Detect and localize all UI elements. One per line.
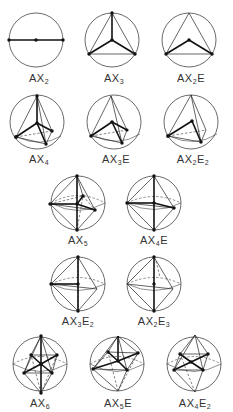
sphere-outline (90, 337, 144, 391)
figure-ax5: AX5 (40, 170, 116, 236)
edge (93, 369, 118, 391)
ligand-atom (50, 129, 53, 132)
ax3e2-diagram (40, 251, 116, 317)
hidden-edge (41, 355, 57, 393)
figure-ax4: AX4 (1, 88, 77, 154)
ligand-atom (29, 353, 32, 356)
ligand-atom (152, 255, 155, 258)
ligand-atom (50, 371, 53, 374)
figure-label: AX4 (1, 153, 77, 165)
figure-ax2: AX2 (1, 6, 77, 72)
figure-ax2e: AX2E (153, 6, 229, 72)
bond (16, 123, 37, 137)
central-atom (152, 282, 155, 285)
ax4-diagram (1, 88, 77, 154)
bond (192, 121, 201, 142)
ligand-atom (55, 353, 58, 356)
ligand-atom (133, 52, 136, 55)
figure-label: AX2E2 (155, 153, 231, 165)
edge (195, 370, 203, 392)
ax5e-diagram (80, 331, 156, 397)
figure-label: AX2 (1, 72, 77, 84)
edge (37, 96, 46, 144)
central-atom (110, 38, 113, 41)
ligand-atom (120, 141, 123, 144)
ligand-atom (152, 309, 155, 312)
ligand-atom (7, 38, 10, 41)
edge (78, 289, 97, 311)
edge (111, 96, 122, 143)
ligand-atom (125, 128, 128, 131)
triangle-edges (166, 13, 212, 54)
ligand-atom (39, 391, 42, 394)
ligand-atom (178, 352, 181, 355)
ligand-atom (75, 174, 78, 177)
ligand-atom (87, 52, 90, 55)
ax4e2-diagram (157, 331, 233, 397)
ligand-atom (81, 194, 84, 197)
ligand-atom (199, 140, 202, 143)
figure-ax3: AX3 (76, 6, 152, 72)
bond (89, 40, 112, 54)
ligand-atom (44, 142, 47, 145)
ligand-atom (39, 334, 42, 337)
ligand-atom (201, 368, 204, 371)
edge (122, 130, 127, 143)
edge (46, 131, 52, 144)
ligand-atom (125, 368, 128, 371)
central-atom (35, 121, 38, 124)
figure-label: AX2E3 (116, 315, 192, 327)
ligand-atom (136, 351, 139, 354)
central-atom (116, 359, 119, 362)
ax3e-diagram (78, 88, 154, 154)
ligand-atom (35, 94, 38, 97)
ax6-diagram (2, 331, 78, 397)
ligand-atom (166, 134, 170, 138)
central-atom (152, 201, 155, 204)
figure-label: AX4E (116, 234, 192, 246)
figure-label: AX4E2 (157, 397, 233, 409)
edge (78, 257, 97, 289)
ligand-atom (14, 135, 18, 139)
ligand-atom (152, 174, 155, 177)
figure-ax2e2: AX2E2 (155, 88, 231, 154)
bond (168, 121, 192, 136)
edge (154, 257, 173, 289)
ax3-diagram (76, 6, 152, 72)
edge (154, 208, 174, 230)
figure-label: AX5 (40, 234, 116, 246)
central-atom (187, 38, 190, 41)
central-atom (190, 119, 193, 122)
ligand-atom (49, 282, 52, 285)
figure-ax3e2: AX3E2 (40, 251, 116, 317)
ligand-atom (206, 352, 209, 355)
central-atom (110, 120, 114, 124)
figure-ax2e3: AX2E3 (116, 251, 192, 317)
figure-label: AX3 (76, 72, 152, 84)
ligand-atom (106, 350, 109, 353)
edge (127, 284, 173, 289)
figure-label: AX3E2 (40, 315, 116, 327)
ligand-atom (125, 201, 128, 204)
edge (191, 95, 201, 142)
ligand-atom (172, 206, 175, 209)
figure-ax4e: AX4E (116, 170, 192, 236)
central-atom (39, 362, 42, 365)
figure-label: AX5E (80, 397, 156, 409)
figure-label: AX2E (153, 72, 229, 84)
ligand-atom (164, 52, 167, 55)
edge (118, 336, 138, 353)
ligand-atom (210, 52, 213, 55)
figure-label: AX6 (2, 397, 78, 409)
ligand-atom (76, 309, 79, 312)
central-atom (76, 282, 79, 285)
hidden-edge (118, 353, 138, 391)
ax2e-diagram (153, 6, 229, 72)
ligand-atom (91, 367, 94, 370)
ligand-atom (89, 134, 93, 138)
ax2e2-diagram (155, 88, 231, 154)
ax2e3-diagram (116, 251, 192, 317)
figure-label: AX3E (78, 153, 154, 165)
edge (41, 336, 52, 373)
bond (189, 40, 212, 54)
